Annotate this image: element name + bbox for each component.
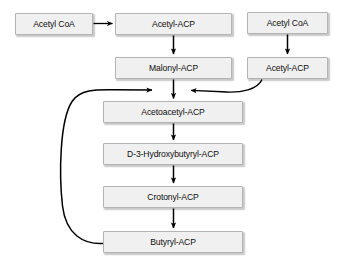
node-label: Crotonyl-ACP — [147, 193, 198, 202]
node-acetyl-acp-top[interactable]: Acetyl-ACP — [115, 13, 232, 35]
node-butyryl-acp[interactable]: Butyryl-ACP — [103, 231, 243, 253]
edge-layer — [0, 0, 340, 270]
node-label: Acetyl-ACP — [266, 64, 309, 73]
node-label: D-3-Hydroxybutyryl-ACP — [127, 150, 219, 159]
node-label: Acetoacetyl-ACP — [141, 108, 204, 117]
node-label: Acetyl-ACP — [152, 20, 195, 29]
node-d3-hydroxybutyryl-acp[interactable]: D-3-Hydroxybutyryl-ACP — [103, 143, 243, 165]
node-malonyl-acp[interactable]: Malonyl-ACP — [115, 57, 232, 79]
node-label: Malonyl-ACP — [149, 64, 198, 73]
node-acetoacetyl-acp[interactable]: Acetoacetyl-ACP — [103, 101, 243, 123]
node-label: Acetyl CoA — [33, 20, 75, 29]
edge-acetylacp-right-to-junction — [191, 80, 262, 93]
node-label: Acetyl CoA — [267, 19, 309, 28]
node-crotonyl-acp[interactable]: Crotonyl-ACP — [103, 186, 243, 208]
node-acetyl-coa-right[interactable]: Acetyl CoA — [247, 12, 328, 34]
pathway-diagram: Acetyl CoA Acetyl-ACP Acetyl CoA Malonyl… — [0, 0, 340, 270]
node-label: Butyryl-ACP — [150, 238, 196, 247]
node-acetyl-acp-right[interactable]: Acetyl-ACP — [247, 57, 328, 79]
node-acetyl-coa-left[interactable]: Acetyl CoA — [15, 13, 93, 35]
